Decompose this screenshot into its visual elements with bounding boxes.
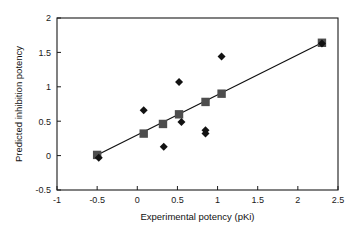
data-point-square — [217, 89, 225, 97]
data-point-diamond — [175, 78, 183, 86]
data-point-square — [175, 110, 183, 118]
data-point-square — [159, 120, 167, 128]
x-tick-label: 0.5 — [171, 195, 184, 205]
data-point-diamond — [218, 53, 226, 61]
x-tick-label: 1.5 — [251, 195, 264, 205]
chart-canvas: -1-0.500.511.522.5-0.500.511.52Experimen… — [0, 0, 355, 242]
x-tick-label: 0 — [135, 195, 140, 205]
data-point-diamond — [160, 143, 168, 151]
scatter-chart-figure: -1-0.500.511.522.5-0.500.511.52Experimen… — [0, 0, 355, 242]
data-point-square — [201, 98, 209, 106]
x-tick-label: 2.5 — [332, 195, 345, 205]
x-tick-label: 1 — [215, 195, 220, 205]
x-tick-label: -1 — [53, 195, 61, 205]
y-tick-label: 2 — [46, 13, 51, 23]
series-squares — [93, 39, 326, 160]
data-point-square — [140, 129, 148, 137]
data-point-diamond — [140, 106, 148, 114]
data-point-diamond — [177, 118, 185, 126]
plot-frame — [57, 18, 338, 190]
x-axis-title: Experimental potency (pKi) — [140, 211, 254, 222]
y-tick-label: 0 — [46, 151, 51, 161]
y-tick-label: -0.5 — [35, 185, 51, 195]
y-tick-label: 0.5 — [38, 117, 51, 127]
x-tick-label: -0.5 — [89, 195, 105, 205]
y-axis-title: Predicted inhibition potency — [13, 46, 24, 162]
y-tick-label: 1 — [46, 82, 51, 92]
x-tick-label: 2 — [295, 195, 300, 205]
y-tick-label: 1.5 — [38, 48, 51, 58]
